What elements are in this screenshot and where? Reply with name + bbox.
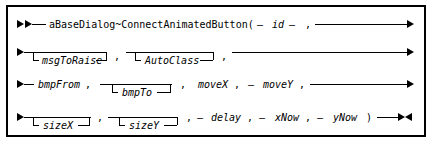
- token-comma-6: ,: [234, 80, 240, 90]
- row3-opt-bypass-line: [100, 84, 172, 85]
- row4-opt1-left-foot: [33, 125, 39, 126]
- row3-opt-left-drop: [112, 84, 113, 92]
- diagram-row-3: bmpFrom , bmpTo , moveX , — moveY ,: [8, 69, 424, 102]
- row4-opt2-left-drop: [119, 117, 120, 125]
- row4-start-arrow-icon: [17, 113, 24, 121]
- token-right-paren: ): [366, 113, 372, 123]
- token-comma-7: ,: [299, 80, 305, 90]
- token-sizeX: sizeX: [43, 121, 73, 131]
- diagram-row-4: sizeX , sizeY , — delay , — xNow , — yNo…: [8, 102, 424, 135]
- token-dash-before-moveY: —: [248, 80, 254, 90]
- row2-opt2-left-foot: [135, 60, 141, 61]
- token-comma-5: ,: [180, 80, 186, 90]
- token-dash-before-xNow: —: [259, 113, 265, 123]
- token-AutoClass: AutoClass: [145, 56, 199, 66]
- token-yNow: yNow: [333, 113, 357, 123]
- diagram-row-1: aBaseDialog~ConnectAnimatedButton( — id …: [8, 7, 424, 40]
- token-comma-10: ,: [247, 113, 253, 123]
- row3-opt-right-drop: [170, 84, 171, 92]
- row1-end-arrow-icon: [407, 20, 414, 28]
- row2-opt2-bypass-line: [126, 52, 214, 53]
- row3-end-arrow-icon: [407, 80, 414, 88]
- start-arrow-1-icon: [17, 20, 24, 28]
- token-comma-4: ,: [85, 80, 91, 90]
- token-id: id: [272, 20, 284, 30]
- token-delay: delay: [211, 113, 241, 123]
- row4-opt2-right-foot: [164, 125, 177, 126]
- token-msgToRaise: msgToRaise: [42, 56, 102, 66]
- end-arrow-right-icon: [398, 113, 405, 121]
- row2-end-arrow-icon: [407, 48, 414, 56]
- row2-opt1-right-drop: [106, 52, 107, 60]
- start-arrow-2-icon: [25, 20, 32, 28]
- row4-tail-line: [377, 117, 399, 118]
- token-moveX: moveX: [198, 80, 228, 90]
- row2-opt1-left-drop: [33, 52, 34, 60]
- token-comma-2: ,: [114, 52, 120, 62]
- row3-tail-line: [310, 84, 408, 85]
- row4-opt1-right-drop: [89, 117, 90, 125]
- row3-lead-line: [24, 84, 34, 85]
- syntax-diagram-frame: aBaseDialog~ConnectAnimatedButton( — id …: [6, 5, 426, 137]
- token-sizeY: sizeY: [129, 121, 159, 131]
- row4-opt2-left-foot: [119, 125, 125, 126]
- diagram-row-2: msgToRaise , AutoClass ,: [8, 38, 424, 71]
- row2-opt1-bypass-line: [24, 52, 107, 53]
- row2-opt1-right-foot: [96, 60, 107, 61]
- token-comma-3: ,: [221, 52, 227, 62]
- token-comma-9: ,: [186, 113, 192, 123]
- token-comma-8: ,: [97, 113, 103, 123]
- row4-opt1-left-drop: [33, 117, 34, 125]
- token-bmpFrom: bmpFrom: [38, 80, 80, 90]
- row2-opt2-right-foot: [200, 60, 213, 61]
- token-comma-11: ,: [305, 113, 311, 123]
- row2-opt1-left-foot: [33, 60, 39, 61]
- token-comma-1: ,: [305, 20, 311, 30]
- row3-opt-left-foot: [112, 92, 118, 93]
- row4-opt2-right-drop: [177, 117, 178, 125]
- row2-start-arrow-icon: [17, 48, 24, 56]
- row2-opt2-right-drop: [213, 52, 214, 60]
- token-dash-after-id: —: [289, 20, 295, 30]
- token-dash-before-id: —: [257, 20, 263, 30]
- row2-tail-line: [232, 52, 408, 53]
- token-dash-before-delay: —: [197, 113, 203, 123]
- token-method-name: aBaseDialog~ConnectAnimatedButton(: [49, 20, 254, 30]
- row4-opt1-bypass-line: [24, 117, 91, 118]
- token-moveY: moveY: [263, 80, 293, 90]
- end-arrow-left-icon: [405, 113, 412, 121]
- row3-opt-right-foot: [157, 92, 171, 93]
- token-dash-before-yNow: —: [317, 113, 323, 123]
- row1-lead-line: [32, 24, 46, 25]
- row4-opt1-right-foot: [78, 125, 90, 126]
- token-xNow: xNow: [275, 113, 299, 123]
- token-bmpTo: bmpTo: [122, 88, 152, 98]
- row3-start-arrow-icon: [17, 80, 24, 88]
- row2-opt2-left-drop: [135, 52, 136, 60]
- row1-tail-line: [315, 24, 408, 25]
